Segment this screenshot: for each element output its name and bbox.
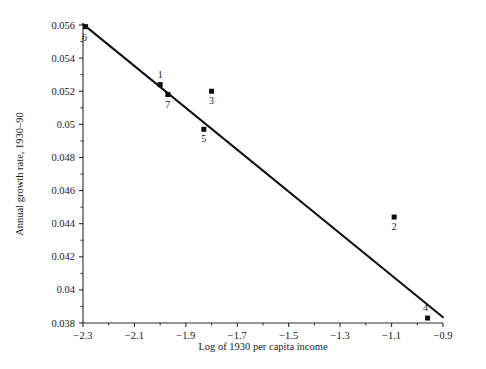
data-point: 1	[158, 69, 163, 88]
y-axis-tick-label: 0.042	[51, 251, 75, 262]
data-point-label: 6	[82, 32, 87, 43]
x-axis-tick-label: −1.5	[279, 330, 298, 341]
chart-figure: 0.0380.040.0420.0440.0460.0480.050.0520.…	[0, 0, 486, 369]
data-point-marker	[209, 89, 214, 94]
x-axis-tick-label: −1.3	[331, 330, 350, 341]
data-point: 2	[392, 215, 397, 233]
data-point-marker	[83, 24, 88, 29]
data-point-marker	[165, 92, 170, 97]
data-point-label: 5	[201, 133, 206, 144]
data-point: 7	[165, 92, 170, 110]
x-axis-tick-label: −1.9	[176, 330, 195, 341]
data-point-marker	[425, 316, 430, 321]
y-axis-tick-label: 0.054	[51, 53, 75, 64]
x-axis-tick-label: −1.1	[382, 330, 401, 341]
y-axis-tick-label: 0.05	[57, 119, 75, 130]
x-axis-tick-label: −0.9	[433, 330, 452, 341]
x-axis-title: Log of 1930 per capita income	[198, 341, 328, 352]
data-point-label: 3	[209, 95, 214, 106]
data-point-label: 7	[165, 99, 170, 110]
y-axis-tick-label: 0.046	[51, 185, 75, 196]
data-point-label: 4	[423, 302, 428, 313]
x-axis-tick-label: −1.7	[228, 330, 247, 341]
data-point: 3	[209, 89, 214, 107]
data-point: 5	[201, 127, 206, 145]
y-axis-tick-label: 0.048	[51, 152, 75, 163]
y-axis-tick-label: 0.04	[57, 284, 76, 295]
scatter-plot-svg: 0.0380.040.0420.0440.0460.0480.050.0520.…	[0, 0, 486, 369]
data-point-marker	[392, 215, 397, 220]
y-axis-tick-label: 0.038	[51, 318, 75, 329]
y-axis-title: Annual growth rate, 1930–90	[14, 112, 25, 236]
data-point-marker	[158, 82, 163, 87]
data-point-label: 2	[392, 221, 397, 232]
data-point-label: 1	[158, 69, 163, 80]
data-point-marker	[201, 127, 206, 132]
y-axis-tick-label: 0.052	[51, 86, 75, 97]
y-axis-tick-label: 0.044	[51, 218, 75, 229]
x-axis-tick-label: −2.3	[73, 330, 92, 341]
y-axis-tick-label: 0.056	[51, 20, 75, 31]
x-axis-tick-label: −2.1	[125, 330, 144, 341]
